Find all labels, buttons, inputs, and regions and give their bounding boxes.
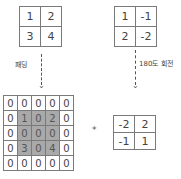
matrix-cell: 0	[4, 111, 18, 126]
matrix-cell-shaded: 0	[32, 126, 46, 141]
padded-matrix: 0 0 0 0 0 0 1 0 2 0 0 0 0 0 0 0 3 0 4 0 …	[3, 95, 74, 171]
matrix-cell: 0	[18, 96, 32, 111]
matrix-cell: 0	[4, 126, 18, 141]
matrix-cell: 3	[20, 27, 41, 47]
arrow-down-icon: ⌄	[132, 82, 139, 90]
matrix-cell: -2	[114, 116, 135, 133]
input-matrix: 1 2 3 4	[19, 6, 62, 47]
matrix-cell-shaded: 1	[18, 111, 32, 126]
matrix-cell-shaded: 4	[46, 141, 60, 156]
matrix-cell-shaded: 0	[18, 126, 32, 141]
matrix-cell: 1	[135, 133, 156, 150]
matrix-cell: -2	[136, 27, 157, 47]
matrix-cell-shaded: 0	[32, 141, 46, 156]
matrix-cell: 2	[41, 7, 62, 27]
matrix-cell: 1	[115, 7, 136, 27]
matrix-cell: 1	[20, 7, 41, 27]
matrix-cell: 0	[32, 156, 46, 171]
rotate-arrow	[135, 50, 136, 85]
matrix-cell: 0	[18, 156, 32, 171]
matrix-cell: 0	[4, 141, 18, 156]
matrix-cell: -1	[114, 133, 135, 150]
matrix-cell: 2	[115, 27, 136, 47]
matrix-cell: 0	[32, 96, 46, 111]
rotated-kernel-matrix: -2 2 -1 1	[113, 115, 156, 150]
matrix-cell: 2	[135, 116, 156, 133]
matrix-cell-shaded: 3	[18, 141, 32, 156]
matrix-cell: 0	[60, 111, 74, 126]
matrix-cell: -1	[136, 7, 157, 27]
matrix-cell: 0	[4, 96, 18, 111]
matrix-cell: 4	[41, 27, 62, 47]
padding-label: 패딩	[15, 59, 27, 69]
rotate-label: 180도 회전	[139, 58, 173, 68]
matrix-cell: 0	[60, 96, 74, 111]
arrow-down-icon: ⌄	[38, 82, 45, 90]
matrix-cell-shaded: 0	[32, 111, 46, 126]
matrix-cell: 0	[60, 141, 74, 156]
matrix-cell: 0	[4, 156, 18, 171]
matrix-cell: 0	[60, 156, 74, 171]
kernel-matrix: 1 -1 2 -2	[114, 6, 157, 47]
matrix-cell: 0	[46, 156, 60, 171]
convolution-operator: *	[92, 125, 97, 135]
matrix-cell: 0	[60, 126, 74, 141]
matrix-cell: 0	[46, 96, 60, 111]
matrix-cell-shaded: 2	[46, 111, 60, 126]
matrix-cell-shaded: 0	[46, 126, 60, 141]
